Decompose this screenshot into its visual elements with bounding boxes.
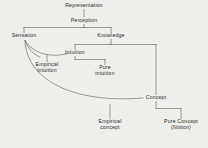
node-pure-concept: Pure Concept (Notion)	[164, 118, 198, 130]
node-intuition: Intuition	[65, 49, 85, 55]
node-pure-intuition: Pure intuition	[95, 64, 115, 76]
node-knowledge: Knowledge	[97, 32, 124, 38]
diagram-canvas: Representation Perception Sensation Know…	[0, 0, 208, 148]
node-empirical-intuition: Empirical intuition	[36, 61, 59, 73]
node-empirical-concept: Empirical concept	[99, 118, 122, 130]
node-sensation: Sensation	[12, 32, 37, 38]
edge-sensation-intuition-curve	[25, 41, 68, 56]
node-representation: Representation	[65, 2, 103, 8]
node-concept: Concept	[146, 94, 167, 100]
node-perception: Perception	[71, 17, 98, 23]
